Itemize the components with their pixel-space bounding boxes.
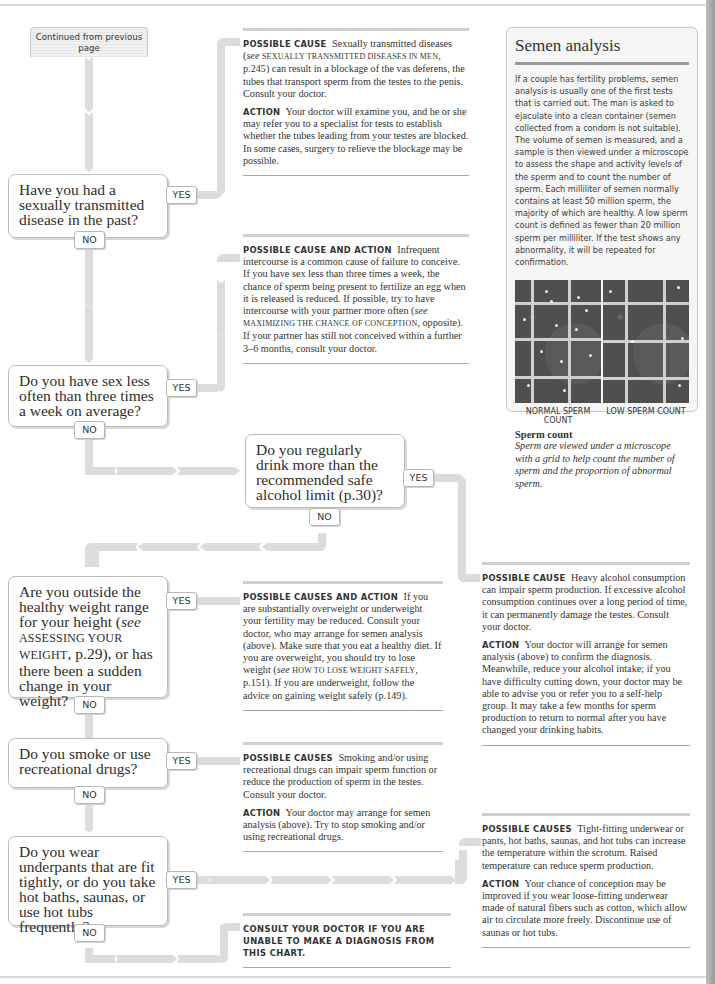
- yes-button-heat[interactable]: YES: [166, 871, 197, 889]
- cause-text: If you are substantially overweight or u…: [243, 591, 441, 675]
- question-heat: Do you wear underpants that are fit tigh…: [8, 836, 168, 926]
- cause-paragraph: Possible causes and action If you are su…: [243, 591, 443, 702]
- normal-sperm-figure: NORMAL SPERM COUNT: [515, 280, 601, 425]
- question-text: Do you have sex less often than three ti…: [19, 372, 154, 419]
- action-paragraph: Action Your doctor will examine you, and…: [243, 106, 469, 167]
- cause-label: Possible cause and action: [243, 245, 392, 255]
- cross-reference-link: How to lose weight safely: [292, 666, 415, 675]
- outcome-alcohol: Possible cause Heavy alcohol consumption…: [482, 562, 690, 746]
- no-label: NO: [82, 424, 97, 435]
- cause-paragraph: Possible causes Tight-fitting underwear …: [482, 823, 690, 872]
- cross-reference-link: Sexually transmitted diseases in men: [262, 52, 438, 61]
- low-sperm-count-image: [603, 280, 689, 403]
- question-weight: Are you outside the healthy weight range…: [8, 576, 168, 698]
- image-caption: LOW SPERM COUNT: [603, 407, 689, 416]
- yes-label: YES: [173, 595, 191, 606]
- outcome-final: Consult your doctor if you are unable to…: [243, 913, 451, 968]
- action-text: Your doctor will arrange for semen analy…: [482, 639, 682, 735]
- normal-sperm-count-image: [515, 280, 601, 403]
- outcome-weight: Possible causes and action If you are su…: [243, 581, 443, 711]
- no-button-alcohol[interactable]: NO: [309, 508, 340, 526]
- no-label: NO: [82, 699, 97, 710]
- action-label: Action: [243, 107, 280, 117]
- cause-paragraph: Possible cause and action Infrequent int…: [243, 244, 469, 355]
- no-label: NO: [82, 789, 97, 800]
- yes-button-smoking[interactable]: YES: [166, 752, 197, 770]
- question-text: Have you had a sexually transmitted dise…: [19, 181, 144, 228]
- cause-label: Possible causes: [243, 753, 333, 763]
- final-instruction: Consult your doctor if you are unable to…: [243, 923, 451, 959]
- cause-paragraph: Possible cause Sexually transmitted dise…: [243, 38, 469, 100]
- no-button-smoking[interactable]: NO: [74, 786, 105, 804]
- action-paragraph: Action Your doctor will arrange for seme…: [482, 639, 690, 737]
- yes-label: YES: [410, 472, 428, 483]
- yes-label: YES: [173, 382, 191, 393]
- cause-label: Possible causes and action: [243, 592, 398, 602]
- see-text: see: [277, 664, 290, 675]
- figure-caption-text: Sperm are viewed under a microscope with…: [515, 440, 689, 490]
- no-label: NO: [82, 234, 97, 245]
- cause-label: Possible causes: [482, 824, 572, 834]
- question-see: see: [121, 613, 141, 630]
- cause-paragraph: Possible cause Heavy alcohol consumption…: [482, 572, 690, 633]
- low-sperm-figure: LOW SPERM COUNT: [603, 280, 689, 425]
- no-button-sex-frequency[interactable]: NO: [74, 421, 105, 439]
- figure-caption-title: Sperm count: [515, 429, 689, 440]
- yes-button-sex-frequency[interactable]: YES: [166, 379, 197, 397]
- cause-paragraph: Possible causes Smoking and/or using rec…: [243, 752, 443, 801]
- cross-reference-link: Maximizing the chance of conception: [243, 319, 417, 328]
- action-label: Action: [482, 640, 519, 650]
- action-label: Action: [243, 808, 280, 818]
- semen-analysis-panel: Semen analysis If a couple has fertility…: [506, 27, 698, 412]
- cause-label: Possible cause: [482, 573, 566, 583]
- yes-label: YES: [173, 874, 191, 885]
- action-paragraph: Action Your chance of conception may be …: [482, 878, 690, 939]
- no-button-heat[interactable]: NO: [74, 924, 105, 942]
- question-text: Do you regularly drink more than the rec…: [256, 441, 383, 503]
- yes-button-weight[interactable]: YES: [166, 592, 197, 610]
- see-text: see: [414, 305, 427, 316]
- question-sex-frequency: Do you have sex less often than three ti…: [8, 365, 168, 427]
- question-smoking: Do you smoke or use recreational drugs?: [8, 738, 168, 788]
- panel-title: Semen analysis: [515, 36, 689, 65]
- question-text: Do you smoke or use recreational drugs?: [19, 745, 151, 777]
- start-label: Continued from previous page: [36, 32, 142, 53]
- no-button-std[interactable]: NO: [74, 231, 105, 249]
- yes-label: YES: [173, 755, 191, 766]
- no-label: NO: [82, 927, 97, 938]
- question-alcohol: Do you regularly drink more than the rec…: [245, 434, 405, 508]
- see-text: see: [246, 50, 259, 61]
- yes-label: YES: [173, 189, 191, 200]
- outcome-smoking: Possible causes Smoking and/or using rec…: [243, 742, 443, 852]
- outcome-infrequent-sex: Possible cause and action Infrequent int…: [243, 234, 469, 364]
- page-edge: [706, 0, 715, 984]
- cause-label: Possible cause: [243, 39, 327, 49]
- no-button-weight[interactable]: NO: [74, 696, 105, 714]
- outcome-std: Possible cause Sexually transmitted dise…: [243, 28, 469, 176]
- panel-body: If a couple has fertility problems, seme…: [515, 73, 689, 268]
- page-top-rule: [0, 4, 706, 6]
- microscope-images: NORMAL SPERM COUNT LOW SPERM COUNT: [515, 280, 689, 425]
- yes-button-alcohol[interactable]: YES: [403, 469, 434, 487]
- page-bottom-rule: [0, 976, 706, 978]
- yes-button-std[interactable]: YES: [166, 186, 197, 204]
- question-text: Do you wear underpants that are fit tigh…: [19, 843, 155, 935]
- question-std: Have you had a sexually transmitted dise…: [8, 174, 168, 238]
- outcome-heat: Possible causes Tight-fitting underwear …: [482, 813, 690, 948]
- no-label: NO: [317, 511, 332, 522]
- action-label: Action: [482, 879, 519, 889]
- action-paragraph: Action Your doctor may arrange for semen…: [243, 807, 443, 844]
- continued-from-previous-page: Continued from previous page: [30, 27, 148, 57]
- image-caption: NORMAL SPERM COUNT: [515, 407, 601, 425]
